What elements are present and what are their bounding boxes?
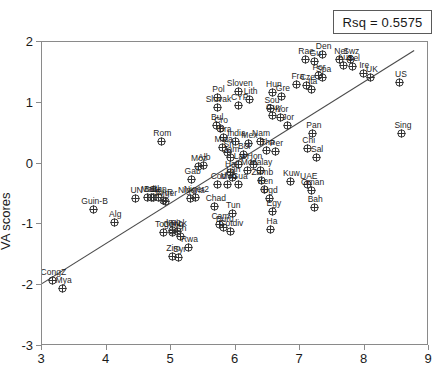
y-axis-label: VA scores: [0, 192, 13, 250]
y-tick-mark: [36, 223, 41, 224]
x-tick-mark: [428, 345, 429, 350]
point-label: Chad: [206, 193, 226, 202]
x-tick-label: 4: [102, 351, 109, 366]
point-label: Bah: [308, 195, 323, 204]
scatter-point: [301, 55, 310, 64]
x-tick-mark: [41, 345, 42, 350]
rsq-legend-box: Rsq = 0.5575: [333, 10, 432, 34]
scatter-point: [89, 205, 98, 214]
scatter-point: [310, 203, 319, 212]
scatter-point: [210, 202, 219, 211]
scatter-point: [244, 139, 253, 148]
scatter-point: [268, 207, 277, 216]
x-tick-mark: [364, 345, 365, 350]
x-tick-label: 5: [166, 351, 173, 366]
scatter-point: [191, 193, 200, 202]
scatter-point: [307, 85, 316, 94]
scatter-point: [397, 129, 406, 138]
point-label: Alg: [109, 210, 121, 219]
scatter-point: [234, 101, 243, 110]
scatter-point: [157, 137, 166, 146]
point-label: US: [395, 70, 407, 79]
point-label: Ha: [267, 217, 278, 226]
scatter-point: [223, 180, 232, 189]
y-tick-mark: [36, 102, 41, 103]
scatter-point: [161, 197, 170, 206]
scatter-point: [266, 225, 275, 234]
y-tick-label: 1: [26, 94, 33, 109]
x-tick-label: 3: [37, 351, 44, 366]
x-tick-label: 9: [424, 351, 431, 366]
y-tick-mark: [36, 41, 41, 42]
plot-area: CongZMyaGuin-BAlgUNMaliBurkSLBenRomCARNi…: [42, 42, 427, 344]
scatter-point: [312, 153, 321, 162]
point-label: Mya: [56, 276, 72, 285]
scatter-point: [199, 161, 208, 170]
scatter-point: [271, 147, 280, 156]
scatter-point: [226, 227, 235, 236]
scatter-point: [174, 253, 183, 262]
point-label: Rom: [153, 128, 171, 137]
scatter-point: [366, 73, 375, 82]
point-label: Jor: [282, 113, 294, 122]
x-tick-mark: [170, 345, 171, 350]
scatter-point: [245, 95, 254, 104]
scatter-point: [283, 121, 292, 130]
point-label: Niger: [157, 189, 177, 198]
point-label: Sal: [311, 145, 323, 154]
y-tick-mark: [36, 163, 41, 164]
scatter-point: [348, 62, 357, 71]
point-label: Per: [270, 139, 283, 148]
x-tick-label: 7: [295, 351, 302, 366]
y-tick-label: 0: [26, 155, 33, 170]
plot-frame: CongZMyaGuin-BAlgUNMaliBurkSLBenRomCARNi…: [41, 41, 428, 345]
point-label: Sing: [394, 121, 411, 130]
scatter-point: [234, 180, 243, 189]
point-label: Pan: [306, 120, 321, 129]
point-label: Cotdiv: [219, 219, 243, 228]
scatter-point: [184, 243, 193, 252]
scatter-point: [159, 228, 168, 237]
point-label: Zamb: [251, 167, 273, 176]
x-tick-mark: [235, 345, 236, 350]
scatter-point: [234, 87, 243, 96]
point-label: Pol: [212, 85, 224, 94]
y-tick-mark: [36, 284, 41, 285]
point-label: Ch: [176, 224, 187, 233]
point-label: Kuw: [283, 169, 300, 178]
point-label: Oman: [301, 178, 324, 187]
x-tick-label: 8: [360, 351, 367, 366]
point-label: Ugd: [262, 186, 278, 195]
y-tick-label: -3: [21, 338, 33, 353]
scatter-point: [110, 218, 119, 227]
scatter-point: [318, 50, 327, 59]
point-label: Den: [316, 42, 332, 50]
x-tick-label: 6: [231, 351, 238, 366]
point-label: Rwa: [181, 235, 198, 244]
x-tick-mark: [106, 345, 107, 350]
point-label: Egy: [267, 198, 282, 207]
scatter-point: [395, 78, 404, 87]
y-tick-label: -2: [21, 277, 33, 292]
point-label: Lith: [244, 86, 258, 95]
point-label: Alb: [198, 153, 210, 162]
point-label: Guin-B: [81, 197, 107, 206]
point-label: Bel: [348, 54, 360, 63]
scatter-point: [213, 93, 222, 102]
point-label: Gre: [276, 84, 290, 93]
y-tick-label: -1: [21, 216, 33, 231]
point-label: UK: [366, 65, 378, 74]
rsq-label: Rsq = 0.5575: [342, 15, 422, 30]
chart-root: Rsq = 0.5575 CongZMyaGuin-BAlgUNMaliBurk…: [0, 0, 448, 389]
scatter-point: [318, 73, 327, 82]
scatter-point: [131, 194, 140, 203]
scatter-point: [213, 103, 222, 112]
y-tick-label: 2: [26, 34, 33, 49]
x-tick-mark: [299, 345, 300, 350]
scatter-point: [58, 284, 67, 293]
point-label: Rae: [298, 46, 314, 55]
point-label: Tun: [226, 201, 240, 210]
scatter-point: [228, 209, 237, 218]
scatter-point: [286, 177, 295, 186]
